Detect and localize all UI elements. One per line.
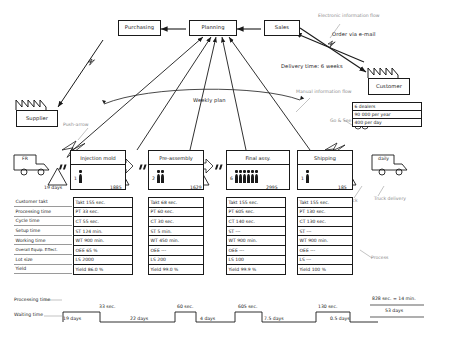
cell-oee: OEE ---	[227, 245, 286, 255]
cell-takt: Takt 155 sec.	[227, 198, 286, 208]
table-row: Processing time	[14, 207, 72, 217]
cell-pt: PT 33 sec.	[74, 207, 133, 217]
process-operators-area: 6	[227, 165, 289, 191]
cell-ct: CT 130 sec.	[298, 217, 353, 227]
worker-icon	[247, 174, 250, 183]
data-box-row-labels: Customer takt Processing time Cycle time…	[14, 197, 72, 274]
waiting-value-1: 19 days	[63, 316, 81, 321]
planning-box[interactable]: Planning	[189, 20, 237, 36]
processing-value-3: 605 sec.	[238, 304, 257, 309]
purchasing-box[interactable]: Purchasing	[118, 20, 161, 36]
worker-icon	[239, 174, 242, 183]
table-row: Yield 100 %	[298, 265, 353, 275]
process-name: Shipping	[298, 151, 352, 165]
process-box-shipping[interactable]: Shipping 1	[297, 150, 353, 190]
process-box-final-assembly[interactable]: Final assy. 6	[226, 150, 290, 190]
cell-wt: WT 900 min.	[227, 236, 286, 246]
table-row: CT 130 sec.	[298, 217, 353, 227]
data-box-pre-assembly: Takt 68 sec. PT 60 sec. CT 30 sec. ST 5 …	[148, 197, 204, 275]
process-label: Process	[371, 255, 388, 260]
cell-yield: Yield 99.0 %	[149, 265, 204, 275]
process-box-pre-assembly[interactable]: Pre-assembly 2	[148, 150, 204, 190]
operator-count: 1	[301, 176, 304, 181]
sales-box[interactable]: Sales	[264, 20, 300, 36]
worker-icon	[243, 174, 246, 183]
table-row: PT 605 sec.	[227, 207, 286, 217]
cell-ct: CT 140 sec.	[227, 217, 286, 227]
row-label-processing-time: Processing time	[14, 207, 72, 217]
process-name: Final assy.	[227, 151, 289, 165]
waiting-value-3: 4 days	[200, 316, 215, 321]
customer-box[interactable]: Customer	[368, 78, 410, 95]
supplier-box[interactable]: Supplier	[16, 110, 58, 127]
planning-label: Planning	[201, 25, 224, 31]
worker-icon	[79, 174, 82, 183]
table-row: CT 30 sec.	[149, 217, 204, 227]
table-row: Takt 155 sec.	[74, 198, 133, 208]
table-row: LS ---	[298, 255, 353, 265]
cell-wt: WT 900 min.	[74, 236, 133, 246]
table-row: Yield 86.0 %	[74, 265, 133, 275]
cell-yield: Yield 99.9 %	[227, 265, 286, 275]
data-box-final-assembly: Takt 155 sec. PT 605 sec. CT 140 sec. ST…	[226, 197, 286, 275]
table-row: Working time	[14, 235, 72, 245]
customer-label: Customer	[376, 84, 402, 90]
table-row: ST 124 min.	[74, 226, 133, 236]
table-row: PT 60 sec.	[149, 207, 204, 217]
cell-pt: PT 605 sec.	[227, 207, 286, 217]
truck-delivery-label: Truck delivery	[374, 196, 406, 201]
table-row: Takt 68 sec.	[149, 198, 204, 208]
demand-dealers: 6 dealers	[353, 103, 422, 111]
inventory-value-3: 1629	[190, 185, 202, 190]
table-row: ST 5 min.	[149, 226, 204, 236]
table-row: WT 450 min.	[149, 236, 204, 246]
table-row: Overall Equip. Effect.	[14, 245, 72, 255]
operator-count: 1	[74, 176, 77, 181]
row-label-setup-time: Setup time	[14, 226, 72, 236]
table-row: Yield	[14, 264, 72, 274]
waiting-value-4: 7.5 days	[264, 316, 284, 321]
operator-count: 2	[152, 176, 155, 181]
worker-icon	[306, 174, 309, 183]
table-row: Takt 155 sec.	[298, 198, 353, 208]
table-row: OEE 65 %	[74, 245, 133, 255]
cell-st: ST 5 min.	[149, 226, 204, 236]
process-name: Injection mold	[71, 151, 125, 165]
table-row: WT 900 min.	[74, 236, 133, 246]
cell-ls: LS 100	[227, 255, 286, 265]
table-row: 6 dealers	[353, 103, 422, 111]
worker-icon	[235, 174, 238, 183]
diagram-connectors	[0, 0, 450, 343]
worker-icon	[251, 174, 254, 183]
timeline-processing-label: Processing time	[14, 297, 50, 302]
inventory-value-1: 19 days	[44, 185, 62, 190]
cell-pt: PT 130 sec.	[298, 207, 353, 217]
cell-ct: CT 30 sec.	[149, 217, 204, 227]
worker-icon	[161, 174, 164, 183]
processing-value-4: 130 sec.	[318, 304, 337, 309]
cell-ct: CT 55 sec.	[74, 217, 133, 227]
worker-icon	[255, 174, 258, 183]
cell-wt: WT 450 min.	[149, 236, 204, 246]
waiting-value-5: 0.5 days	[330, 316, 350, 321]
data-box-injection-mold: Takt 155 sec. PT 33 sec. CT 55 sec. ST 1…	[73, 197, 133, 275]
total-processing-time: 828 sec. = 14 min.	[372, 296, 416, 301]
cell-oee: OEE ---	[149, 245, 204, 255]
outbound-truck-label: daily	[378, 156, 389, 161]
cell-takt: Takt 68 sec.	[149, 198, 204, 208]
table-row: Setup time	[14, 226, 72, 236]
go-and-see-label: Go & See	[330, 118, 351, 123]
purchasing-label: Purchasing	[125, 25, 154, 31]
table-row: PT 130 sec.	[298, 207, 353, 217]
table-row: Takt 155 sec.	[227, 198, 286, 208]
total-waiting-time: 53 days	[385, 308, 403, 313]
table-row: 90 000 per year	[353, 111, 422, 119]
table-row: LS 2000	[74, 255, 133, 265]
cell-oee: OEE 65 %	[74, 245, 133, 255]
cell-wt: WT 900 min.	[298, 236, 353, 246]
sales-label: Sales	[275, 25, 289, 31]
process-name: Pre-assembly	[149, 151, 203, 165]
table-row: Customer takt	[14, 197, 72, 207]
demand-per-day: 400 per day	[353, 119, 422, 127]
process-box-injection-mold[interactable]: Injection mold 1	[70, 150, 126, 190]
